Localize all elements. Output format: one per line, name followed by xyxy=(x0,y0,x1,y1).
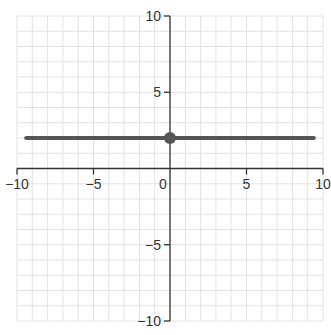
x-tick-label: −10 xyxy=(5,176,29,192)
x-tick-label: 0 xyxy=(159,176,167,192)
y-tick-label: −5 xyxy=(145,237,161,253)
plotted-points xyxy=(164,132,176,144)
coordinate-plane: −10−50510−10−5510 xyxy=(0,0,331,335)
y-tick-label: −10 xyxy=(137,313,161,329)
point-marker[interactable] xyxy=(164,132,176,144)
y-tick-label: 5 xyxy=(153,84,161,100)
x-tick-label: 5 xyxy=(243,176,251,192)
y-tick-label: 10 xyxy=(145,8,161,24)
x-tick-label: 10 xyxy=(315,176,331,192)
x-tick-label: −5 xyxy=(86,176,102,192)
